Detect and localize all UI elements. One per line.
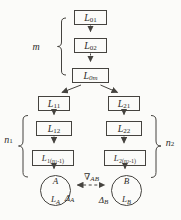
label-delta-a-sub: A <box>70 197 74 204</box>
node-l21-sub: 21 <box>123 103 130 110</box>
label-m-text: m <box>32 42 39 52</box>
node-l12-sub: 12 <box>53 128 60 135</box>
circle-a-line2: LA <box>51 189 60 205</box>
node-l1n-sub-close: -1) <box>57 158 64 164</box>
node-l2n: L2(n2-1) <box>104 150 146 166</box>
circle-b-line2: LB <box>122 189 131 205</box>
label-delta-a: ΔA <box>61 192 78 204</box>
label-delta-b: ΔB <box>95 194 112 206</box>
circle-a-name: A <box>53 177 59 186</box>
node-l0m: L0m <box>72 68 109 83</box>
label-gradient-ab-sub: AB <box>90 176 99 183</box>
node-l2n-sub-close: -1) <box>129 158 136 164</box>
circle-b-line2-sub: B <box>127 198 131 205</box>
label-n1: n1 <box>0 133 17 146</box>
node-l0m-sub: 0m <box>89 75 98 82</box>
fork-chain-diagram: L01 L02 L0m L11 L12 L1(n1-1) L21 L22 L2(… <box>0 0 181 220</box>
arrow-l0m-l11 <box>62 85 81 92</box>
node-l22: L22 <box>106 121 142 136</box>
brace-m <box>58 18 67 75</box>
circle-b-name: B <box>124 177 130 186</box>
arrow-l0m-l21 <box>101 85 118 92</box>
node-l02-sub: 02 <box>90 45 97 52</box>
label-n2-sub: 2 <box>171 141 175 148</box>
label-gradient-ab: ∇AB <box>77 171 106 183</box>
circle-a-line2-sub: A <box>56 198 60 205</box>
node-l11-sub: 11 <box>53 103 60 110</box>
node-l22-sub: 22 <box>123 128 130 135</box>
label-delta-b-sub: B <box>104 199 108 206</box>
label-n2: n2 <box>160 136 180 149</box>
node-l02: L02 <box>74 38 107 53</box>
node-circle-b: B LB <box>111 175 142 206</box>
label-n1-sub: 1 <box>9 138 13 145</box>
node-l11: L11 <box>38 96 70 111</box>
label-m: m <box>27 40 45 53</box>
connector-layer <box>0 0 181 220</box>
node-l1n: L1(n1-1) <box>32 150 74 166</box>
node-l01-sub: 01 <box>90 17 97 24</box>
node-l21: L21 <box>108 96 140 111</box>
brace-n1 <box>19 116 29 178</box>
node-l01: L01 <box>74 10 107 25</box>
node-l12: L12 <box>36 121 72 136</box>
